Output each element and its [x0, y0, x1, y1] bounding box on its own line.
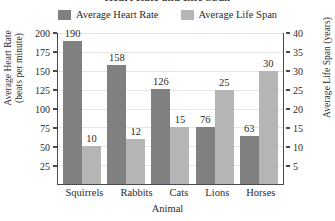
chart-legend: Average Heart Rate Average Life Span: [0, 9, 335, 20]
bar-life-span-rabbits[interactable]: 12: [126, 139, 145, 184]
legend-swatch-heart-rate: [58, 10, 71, 20]
bar-value-heart-rate: 158: [109, 52, 125, 63]
bar-life-span-lions[interactable]: 25: [215, 90, 234, 184]
bar-value-heart-rate: 63: [244, 123, 255, 134]
bar-heart-rate-cats[interactable]: 126: [151, 89, 170, 184]
bar-value-heart-rate: 126: [153, 76, 169, 87]
y-tick-left: 200: [12, 28, 57, 39]
bar-value-life-span: 30: [263, 58, 274, 69]
y-tick-right: 10: [286, 142, 331, 153]
bar-heart-rate-lions[interactable]: 76: [196, 127, 215, 184]
tick-mark: [286, 51, 290, 52]
y-tick-left-label: 50: [40, 142, 50, 153]
x-axis-category-labels: Squirrels Rabbits Cats Lions Horses: [57, 187, 284, 199]
y-tick-left-label: 175: [35, 47, 50, 58]
bar-value-heart-rate: 190: [65, 28, 81, 39]
y-tick-right-label: 15: [293, 123, 303, 134]
tick-mark: [286, 146, 290, 147]
category-label-squirrels: Squirrels: [66, 187, 104, 199]
y-tick-right-label: 25: [293, 85, 303, 96]
y-tick-right: 35: [286, 47, 331, 58]
y-tick-left: 125: [12, 85, 57, 96]
y-tick-right: 5: [286, 161, 331, 172]
legend-entry-life-span[interactable]: Average Life Span: [181, 9, 278, 20]
y-tick-left-label: 150: [35, 66, 50, 77]
bars-container: 190 10 158 12 126 15: [58, 33, 283, 184]
category-label-horses: Horses: [246, 187, 275, 199]
tick-mark: [286, 32, 290, 33]
y-tick-left-label: 100: [35, 104, 50, 115]
y-tick-left: 50: [12, 142, 57, 153]
bar-value-life-span: 10: [86, 133, 97, 144]
y-tick-right-label: 5: [293, 161, 298, 172]
y-tick-left: 100: [12, 104, 57, 115]
bar-group-cats: 126 15: [151, 33, 189, 184]
category-label-lions: Lions: [205, 187, 229, 199]
y-tick-right-label: 30: [293, 66, 303, 77]
y-tick-left-label: 200: [35, 28, 50, 39]
plot-area: 190 10 158 12 126 15: [57, 33, 284, 185]
bar-value-heart-rate: 76: [200, 114, 211, 125]
y-tick-right-label: 35: [293, 47, 303, 58]
y-tick-right-label: 20: [293, 104, 303, 115]
bar-group-squirrels: 190 10: [63, 33, 101, 184]
y-tick-right-label: 40: [293, 28, 303, 39]
tick-mark: [286, 108, 290, 109]
y-axis-right-ticks: 40 35 30 25 20 15 10 5: [286, 33, 326, 185]
bar-value-life-span: 25: [219, 77, 230, 88]
y-tick-right: 20: [286, 104, 331, 115]
y-tick-left-label: 25: [40, 161, 50, 172]
bar-group-rabbits: 158 12: [107, 33, 145, 184]
bar-value-life-span: 15: [175, 114, 186, 125]
y-tick-left: 75: [12, 123, 57, 134]
bar-value-life-span: 12: [131, 126, 142, 137]
y-tick-left: 25: [12, 161, 57, 172]
legend-label-heart-rate: Average Heart Rate: [76, 9, 159, 20]
bar-life-span-cats[interactable]: 15: [170, 127, 189, 184]
x-axis-title: Animal: [0, 203, 335, 214]
y-tick-left-label: 75: [40, 123, 50, 134]
bar-heart-rate-rabbits[interactable]: 158: [107, 65, 126, 184]
bar-group-lions: 76 25: [196, 33, 234, 184]
legend-entry-heart-rate[interactable]: Average Heart Rate: [58, 9, 159, 20]
bar-life-span-horses[interactable]: 30: [259, 71, 278, 184]
y-tick-right: 40: [286, 28, 331, 39]
y-tick-left: 150: [12, 66, 57, 77]
legend-label-life-span: Average Life Span: [199, 9, 278, 20]
category-label-rabbits: Rabbits: [120, 187, 152, 199]
category-label-cats: Cats: [170, 187, 189, 199]
tick-mark: [286, 127, 290, 128]
y-tick-left-label: 125: [35, 85, 50, 96]
y-tick-left: 175: [12, 47, 57, 58]
y-tick-right: 15: [286, 123, 331, 134]
chart-title: Heart Rate and Life Span: [0, 0, 335, 1]
tick-mark: [286, 89, 290, 90]
y-tick-right: 30: [286, 66, 331, 77]
y-tick-right-label: 10: [293, 142, 303, 153]
legend-swatch-life-span: [181, 10, 194, 20]
y-axis-left-ticks: 200 175 150 125 100 75 50 25: [12, 33, 52, 185]
bar-group-horses: 63 30: [240, 33, 278, 184]
tick-mark: [286, 165, 290, 166]
chart-figure: Heart Rate and Life Span Average Heart R…: [0, 0, 335, 221]
bar-life-span-squirrels[interactable]: 10: [82, 146, 101, 184]
bar-heart-rate-horses[interactable]: 63: [240, 136, 259, 184]
tick-mark: [286, 70, 290, 71]
bar-heart-rate-squirrels[interactable]: 190: [63, 41, 82, 184]
y-tick-right: 25: [286, 85, 331, 96]
